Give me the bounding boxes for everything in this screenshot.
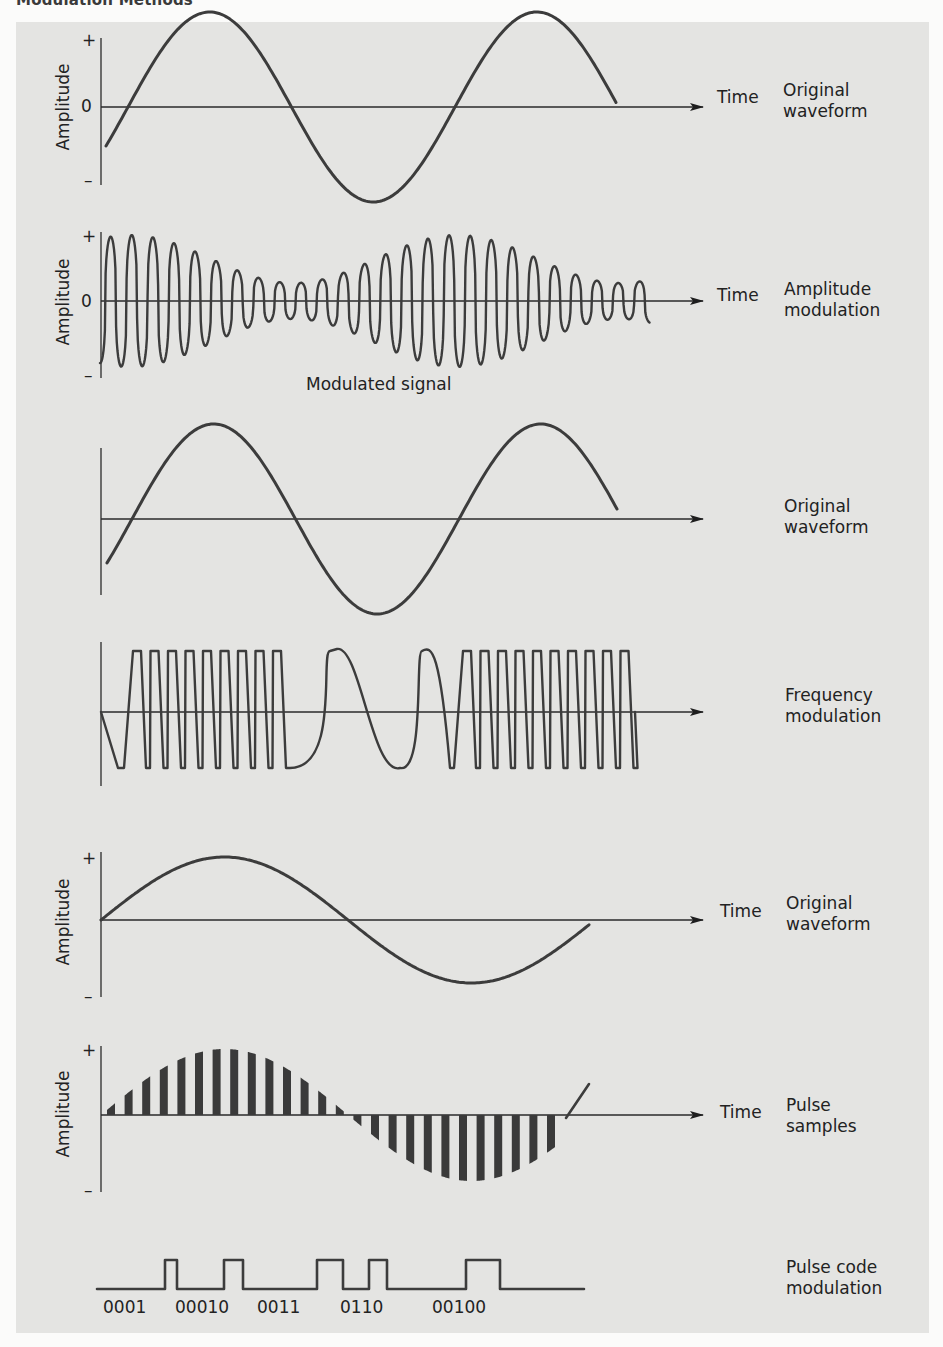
pcm-code-4: 00100 (432, 1297, 486, 1317)
pcm-code-2: 0011 (257, 1297, 300, 1317)
label-line1: Frequency (785, 685, 881, 706)
label-pcm-code: Pulse code modulation (786, 1257, 882, 1299)
label-line2: modulation (785, 706, 881, 727)
label-line2: samples (786, 1116, 857, 1137)
pulse-sample-bar (107, 1103, 115, 1115)
time-label-1: Time (717, 87, 759, 107)
label-line1: Pulse (786, 1095, 857, 1116)
pcm-code-3: 0110 (340, 1297, 383, 1317)
plus-tick-2: + (82, 226, 96, 246)
label-line2: waveform (783, 101, 867, 122)
pulse-sample-bar (459, 1115, 467, 1181)
waveform-layer (97, 12, 650, 1289)
pulse-sample-bar (301, 1078, 309, 1115)
pulse-sample-bar (213, 1049, 221, 1115)
modulation-diagram (0, 0, 943, 1347)
label-fm-modulated: Frequency modulation (785, 685, 881, 727)
amplitude-axis-title-5: Amplitude (53, 877, 73, 967)
pulse-sample-bar (336, 1105, 344, 1115)
pulse-sample-bar (318, 1091, 326, 1115)
pulse-sample-bar (389, 1115, 397, 1153)
zero-tick-2: 0 (81, 291, 92, 311)
pcm-code-0: 0001 (103, 1297, 146, 1317)
pulse-sample-bar (283, 1066, 291, 1115)
label-line2: waveform (784, 517, 868, 538)
time-label-2: Time (717, 285, 759, 305)
plus-tick-1: + (82, 30, 96, 50)
pulse-sample-bar (160, 1065, 168, 1115)
label-pcm-samples: Pulse samples (786, 1095, 857, 1137)
pulse-sample-bar (353, 1115, 361, 1126)
pulse-sample-bar (547, 1115, 555, 1153)
label-line2: modulation (786, 1278, 882, 1299)
minus-tick-5: – (84, 986, 93, 1006)
time-label-5: Time (720, 901, 762, 921)
label-line1: Original (786, 893, 870, 914)
minus-tick-2: – (84, 365, 93, 385)
label-line2: modulation (784, 300, 880, 321)
modulated-signal-caption: Modulated signal (306, 374, 451, 394)
time-label-6: Time (720, 1102, 762, 1122)
pcm-code-1: 00010 (175, 1297, 229, 1317)
pulse-sample-bar (424, 1115, 432, 1173)
pulse-sample-bar (195, 1052, 203, 1116)
label-line1: Amplitude (784, 279, 880, 300)
pulse-sample-bar (529, 1115, 537, 1164)
pulse-sample-bar (177, 1057, 185, 1115)
amplitude-axis-title-6: Amplitude (53, 1069, 73, 1159)
pulse-sample-bar (494, 1115, 502, 1178)
label-am-original: Original waveform (783, 80, 867, 122)
amplitude-axis-title-2: Amplitude (53, 257, 73, 347)
pulse-sample-bar (142, 1076, 150, 1115)
pulse-sample-bar (441, 1115, 449, 1178)
pcm-pulse-train-icon (97, 1260, 584, 1289)
label-line1: Pulse code (786, 1257, 882, 1278)
amplitude-axis-title-1: Amplitude (53, 62, 73, 152)
minus-tick-1: – (84, 170, 93, 190)
pulse-sample-bar (265, 1058, 273, 1115)
label-fm-original: Original waveform (784, 496, 868, 538)
plus-tick-5: + (82, 848, 96, 868)
pulse-samples-tail-icon (566, 1084, 589, 1118)
pulse-sample-bar (406, 1115, 414, 1164)
pulse-sample-bar (512, 1115, 520, 1173)
axes-layer (101, 38, 703, 1192)
minus-tick-6: – (84, 1180, 93, 1200)
plus-tick-6: + (82, 1040, 96, 1060)
pulse-sample-bar (230, 1049, 238, 1115)
pulse-sample-bar (477, 1115, 485, 1181)
label-pcm-original: Original waveform (786, 893, 870, 935)
pulse-sample-bar (248, 1052, 256, 1115)
label-line2: waveform (786, 914, 870, 935)
pulse-sample-bar (125, 1089, 133, 1115)
label-line1: Original (783, 80, 867, 101)
label-line1: Original (784, 496, 868, 517)
fm-modulated-wave-icon (101, 649, 638, 768)
zero-tick-1: 0 (81, 96, 92, 116)
label-am-modulated: Amplitude modulation (784, 279, 880, 321)
pulse-sample-bar (371, 1115, 379, 1140)
